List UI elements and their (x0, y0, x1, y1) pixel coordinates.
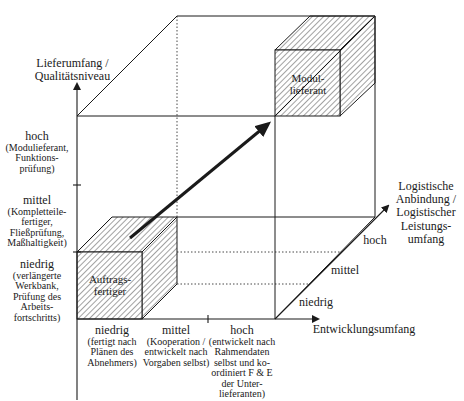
y-level-hoch: hoch (Modulieferant, Funktions-prüfung) (0, 130, 74, 174)
z-level-mittel: mittel (325, 264, 365, 277)
z-level-label: niedrig (296, 296, 336, 309)
y-level-niedrig: niedrig (verlängerte Werkbank, Prüfung d… (0, 258, 74, 323)
y-axis-title: Lieferumfang / Qualitätsniveau (25, 57, 120, 83)
z-level-niedrig: niedrig (296, 296, 336, 309)
y-level-label: niedrig (0, 258, 74, 271)
cube-start (77, 217, 177, 319)
y-level-detail: (Modulieferant, Funktions-prüfung) (0, 143, 74, 175)
x-axis-title: Entwicklungsumfang (294, 323, 434, 336)
x-level-niedrig: niedrig (fertigt nach Plänen des Abnehme… (80, 324, 144, 368)
z-axis-title: Logistische Anbindung / Logistischer Lei… (390, 180, 462, 246)
y-level-mittel: mittel (Kompletteile-fertiger, Fließprüf… (0, 194, 74, 249)
x-level-mittel: mittel (Kooperation / entwickelt nach Vo… (141, 324, 211, 368)
y-level-label: hoch (0, 130, 74, 143)
z-level-label: mittel (325, 264, 365, 277)
x-level-detail: (entwickelt nach Rahmendaten selbst und … (208, 337, 276, 400)
y-level-label: mittel (0, 194, 74, 207)
z-level-label: hoch (355, 234, 395, 247)
development-arrow (130, 124, 268, 238)
cube-end-label: Modul-lieferant (277, 73, 339, 96)
x-level-hoch: hoch (entwickelt nach Rahmendaten selbst… (208, 324, 276, 400)
z-level-hoch: hoch (355, 234, 395, 247)
cube-start-label: Auftrags-fertiger (80, 274, 140, 297)
x-level-label: hoch (208, 324, 276, 337)
x-level-label: niedrig (80, 324, 144, 337)
x-level-detail: (fertigt nach Plänen des Abnehmers) (80, 337, 144, 369)
x-level-detail: (Kooperation / entwickelt nach Vorgaben … (141, 337, 211, 369)
y-level-detail: (verlängerte Werkbank, Prüfung des Arbei… (0, 271, 74, 324)
x-level-label: mittel (141, 324, 211, 337)
y-level-detail: (Kompletteile-fertiger, Fließprüfung, Ma… (0, 207, 74, 249)
